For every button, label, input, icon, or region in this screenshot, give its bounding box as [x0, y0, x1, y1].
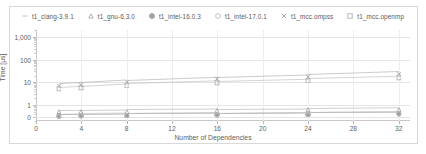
square-open-marker: [347, 13, 354, 20]
data-point: [305, 69, 311, 87]
y-minor-tick: [34, 85, 36, 86]
legend-item-label: t1_clang-3.9.1: [32, 13, 74, 20]
chart-screenshot: t1_clang-3.9.1t1_gnu-6.3.0t1_intel-16.0.…: [0, 0, 426, 154]
x-axis-tick-label: 32: [395, 125, 402, 132]
y-minor-tick: [34, 109, 36, 110]
data-point: [396, 67, 402, 85]
y-minor-tick: [34, 46, 36, 47]
data-point: [396, 103, 402, 121]
y-minor-tick: [34, 39, 36, 40]
legend-item-t1-gnu-6-3-0[interactable]: t1_gnu-6.3.0: [88, 13, 135, 20]
legend-item-t1-mcc-ompss[interactable]: t1_mcc.ompss: [281, 13, 333, 20]
legend-item-t1-mcc-openmp[interactable]: t1_mcc.openmp: [347, 13, 404, 20]
y-axis-line: [36, 30, 37, 121]
y-axis-tick-label: 1,000: [14, 33, 31, 40]
x-gridline: [172, 30, 173, 121]
y-minor-tick: [34, 44, 36, 45]
data-point: [215, 72, 221, 90]
y-minor-tick: [34, 63, 36, 64]
legend-item-label: t1_intel-16.0.3: [159, 13, 201, 20]
legend-item-label: t1_intel-17.0.1: [225, 13, 267, 20]
plot-area: 1,0001001010048121620242832: [36, 30, 410, 121]
x-axis-tick-label: 16: [214, 125, 221, 132]
data-point: [79, 77, 85, 95]
x-axis-tick-label: 12: [168, 125, 175, 132]
triangle-marker: [88, 13, 95, 20]
y-minor-tick: [34, 49, 36, 50]
y-minor-tick: [34, 53, 36, 54]
y-minor-tick: [34, 87, 36, 88]
y-minor-tick: [34, 117, 36, 118]
chart-legend: t1_clang-3.9.1t1_gnu-6.3.0t1_intel-16.0.…: [0, 8, 426, 24]
y-minor-tick: [34, 107, 36, 108]
x-tick-mark: [308, 121, 309, 124]
data-point: [305, 103, 311, 121]
data-point: [56, 105, 62, 123]
legend-item-label: t1_mcc.openmp: [357, 13, 404, 20]
x-tick-mark: [263, 121, 264, 124]
y-minor-tick: [34, 112, 36, 113]
y-minor-tick: [34, 42, 36, 43]
y-minor-tick: [34, 40, 36, 41]
trend-line: [217, 108, 308, 110]
y-axis-tick-label: 100: [20, 56, 31, 63]
y-minor-tick: [34, 38, 36, 39]
dash-marker: [22, 13, 29, 20]
y-axis-tick-label: 0: [27, 113, 31, 120]
data-point: [124, 104, 130, 122]
y-minor-tick: [34, 83, 36, 84]
y-axis-tick-label: 1: [27, 102, 31, 109]
legend-item-t1-intel-16-0-3[interactable]: t1_intel-16.0.3: [149, 13, 201, 20]
legend-item-label: t1_gnu-6.3.0: [98, 13, 135, 20]
y-minor-tick: [34, 86, 36, 87]
x-axis-tick-label: 20: [259, 125, 266, 132]
trend-line: [81, 113, 126, 114]
circle-open-marker: [215, 13, 222, 20]
y-minor-tick: [34, 30, 36, 31]
y-minor-tick: [34, 89, 36, 90]
x-axis-tick-label: 28: [350, 125, 357, 132]
y-minor-tick: [34, 71, 36, 72]
x-axis-tick-label: 8: [125, 125, 129, 132]
x-tick-mark: [36, 121, 37, 124]
y-minor-tick: [34, 98, 36, 99]
y-minor-tick: [34, 65, 36, 66]
cross-marker: [281, 13, 288, 20]
data-point: [56, 78, 62, 96]
y-minor-tick: [34, 94, 36, 95]
data-point: [215, 104, 221, 122]
y-minor-tick: [34, 62, 36, 63]
y-minor-tick: [34, 69, 36, 70]
data-point: [79, 105, 85, 123]
y-minor-tick: [34, 91, 36, 92]
trend-line: [81, 83, 126, 86]
data-point: [124, 74, 130, 92]
y-axis-tick-label: 10: [24, 79, 31, 86]
y-minor-tick: [34, 110, 36, 111]
x-tick-mark: [172, 121, 173, 124]
legend-item-label: t1_mcc.ompss: [291, 13, 333, 20]
circle-solid-marker: [149, 13, 156, 20]
x-axis-title: Number of Dependencies: [0, 134, 426, 141]
legend-item-t1-clang-3-9-1[interactable]: t1_clang-3.9.1: [22, 13, 74, 20]
x-axis-tick-label: 24: [304, 125, 311, 132]
y-minor-tick: [34, 66, 36, 67]
x-axis-tick-label: 4: [79, 125, 83, 132]
y-minor-tick: [34, 114, 36, 115]
y-axis-title: Time [µs]: [0, 54, 6, 82]
y-minor-tick: [34, 106, 36, 107]
legend-item-t1-intel-17-0-1[interactable]: t1_intel-17.0.1: [215, 13, 267, 20]
trend-line: [81, 109, 126, 110]
x-axis-tick-label: 0: [34, 125, 38, 132]
y-minor-tick: [34, 76, 36, 77]
x-tick-mark: [399, 121, 400, 124]
y-minor-tick: [34, 61, 36, 62]
x-tick-mark: [353, 121, 354, 124]
